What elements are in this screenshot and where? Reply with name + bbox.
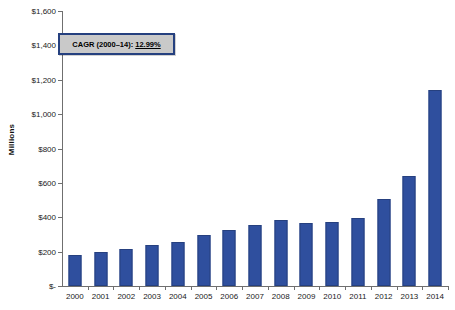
cagr-callout-box: CAGR (2000–14): 12.99% bbox=[58, 33, 175, 55]
y-tick-label: $- bbox=[8, 282, 56, 291]
bar-2005[interactable] bbox=[197, 235, 210, 286]
y-tick-label: $600 bbox=[8, 178, 56, 187]
x-tick-label-2014: 2014 bbox=[418, 292, 452, 301]
x-tick-mark bbox=[242, 286, 243, 290]
x-tick-mark bbox=[88, 286, 89, 290]
y-tick-label: $1,400 bbox=[8, 41, 56, 50]
y-tick-mark bbox=[58, 286, 63, 287]
bar-slot bbox=[216, 11, 242, 286]
y-tick-label: $1,200 bbox=[8, 75, 56, 84]
bar-slot bbox=[345, 11, 371, 286]
bar-2010[interactable] bbox=[326, 222, 339, 286]
bar-slot bbox=[191, 11, 217, 286]
bar-2004[interactable] bbox=[171, 242, 184, 286]
y-tick-label: $800 bbox=[8, 144, 56, 153]
bar-slot bbox=[294, 11, 320, 286]
x-tick-mark bbox=[448, 286, 449, 290]
bar-slot bbox=[268, 11, 294, 286]
x-tick-mark bbox=[191, 286, 192, 290]
x-tick-mark bbox=[113, 286, 114, 290]
x-tick-mark bbox=[268, 286, 269, 290]
cagr-callout-text: CAGR (2000–14): 12.99% bbox=[72, 40, 160, 49]
bar-2013[interactable] bbox=[403, 176, 416, 286]
bar-2003[interactable] bbox=[146, 245, 159, 286]
y-tick-label: $200 bbox=[8, 247, 56, 256]
bar-2012[interactable] bbox=[377, 199, 390, 286]
bar-2006[interactable] bbox=[223, 230, 236, 286]
bar-2001[interactable] bbox=[94, 252, 107, 286]
bar-2014[interactable] bbox=[429, 90, 442, 286]
y-tick-label: $400 bbox=[8, 213, 56, 222]
bar-slot bbox=[319, 11, 345, 286]
bar-2008[interactable] bbox=[274, 220, 287, 286]
x-tick-mark bbox=[422, 286, 423, 290]
bar-2002[interactable] bbox=[120, 249, 133, 286]
bar-chart: Millions $1,600$1,400$1,200$1,000$800$60… bbox=[0, 0, 455, 310]
y-tick-label: $1,000 bbox=[8, 110, 56, 119]
bar-2007[interactable] bbox=[248, 225, 261, 286]
bar-slot bbox=[397, 11, 423, 286]
x-tick-mark bbox=[139, 286, 140, 290]
bar-slot bbox=[422, 11, 448, 286]
bar-2009[interactable] bbox=[300, 223, 313, 286]
cagr-value: 12.99% bbox=[135, 40, 160, 49]
x-tick-mark bbox=[294, 286, 295, 290]
x-tick-mark bbox=[397, 286, 398, 290]
bar-2011[interactable] bbox=[351, 218, 364, 286]
cagr-label: CAGR (2000–14): bbox=[72, 40, 135, 49]
y-tick-label: $1,600 bbox=[8, 7, 56, 16]
bar-2000[interactable] bbox=[68, 255, 81, 286]
x-tick-mark bbox=[371, 286, 372, 290]
bar-slot bbox=[242, 11, 268, 286]
x-tick-mark bbox=[345, 286, 346, 290]
bar-slot bbox=[371, 11, 397, 286]
x-axis-line bbox=[62, 286, 448, 287]
x-tick-mark bbox=[216, 286, 217, 290]
x-tick-mark bbox=[165, 286, 166, 290]
x-tick-mark bbox=[319, 286, 320, 290]
